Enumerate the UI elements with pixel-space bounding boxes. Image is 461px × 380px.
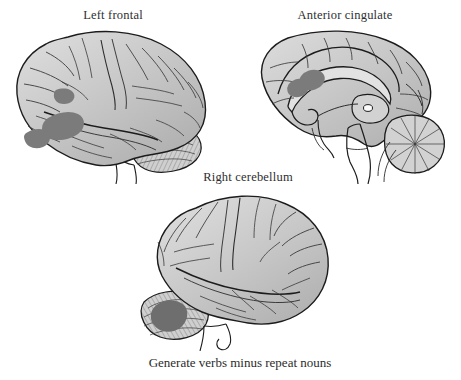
brain-activation-figure: Left frontal Anterior cingulate Right ce… (0, 0, 461, 380)
brainstem-shape (200, 324, 231, 351)
figure-caption: Generate verbs minus repeat nouns (149, 355, 332, 371)
panel-midsagittal-brain (240, 24, 458, 184)
label-left-frontal: Left frontal (83, 8, 143, 23)
panel-right-lateral-brain (128, 186, 338, 351)
cerebellum-shape (378, 115, 444, 182)
panel-left-lateral-brain (6, 24, 216, 184)
label-anterior-cingulate: Anterior cingulate (298, 8, 393, 23)
label-right-cerebellum: Right cerebellum (203, 170, 293, 185)
